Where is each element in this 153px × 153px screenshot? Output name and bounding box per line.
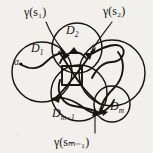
disk-right-outline: [79, 40, 145, 106]
point-a-dot: [20, 63, 23, 66]
disk-label-D2: D2: [66, 24, 78, 39]
curve-arrowhead-1: [68, 47, 79, 54]
figure-canvas: [0, 0, 153, 153]
math-figure: D1 D2 Dm−1 Dm a b γ(s₁) γ(s₂) γ(sₘ₋₁): [0, 0, 153, 153]
disk-label-Dm: Dm: [110, 100, 124, 115]
point-label-a: a: [14, 57, 19, 67]
annotation-gamma-s2: γ(s₂): [103, 5, 125, 17]
point-label-b: b: [98, 107, 103, 117]
annotation-gamma-s1: γ(s₁): [24, 6, 46, 18]
disk-label-D1: D1: [31, 42, 43, 57]
disk-label-Dm-1: Dm−1: [52, 107, 75, 122]
annotation-gamma-sm-1: γ(sₘ₋₁): [54, 136, 89, 148]
